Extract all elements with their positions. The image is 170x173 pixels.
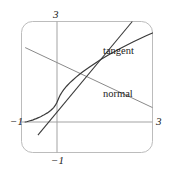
y-axis-top-tick-label: 3 — [53, 9, 59, 20]
y-axis-bottom-tick-label: −1 — [51, 155, 64, 166]
tangent-line — [38, 22, 132, 136]
math-figure: 3 −1 3 −1 tangent normal — [0, 0, 170, 173]
normal-line — [25, 48, 152, 108]
plot-canvas — [0, 0, 170, 173]
tangent-line-label: tangent — [103, 46, 134, 57]
x-axis-left-tick-label: −1 — [10, 116, 23, 127]
normal-line-label: normal — [103, 89, 133, 100]
plot-frame — [22, 22, 153, 153]
x-axis-right-tick-label: 3 — [156, 116, 162, 127]
